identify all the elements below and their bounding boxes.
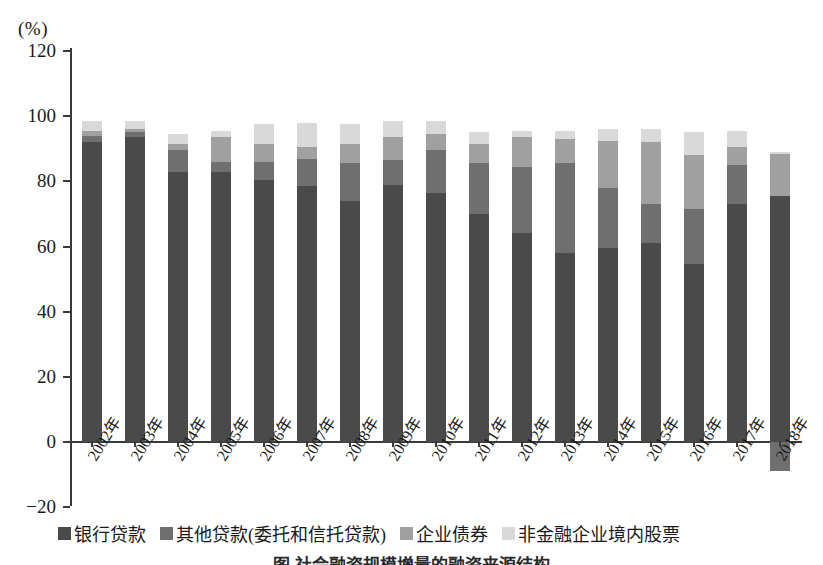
- legend-label: 银行贷款: [74, 520, 146, 546]
- y-tick-mark: [63, 180, 70, 182]
- bar-segment: [254, 162, 274, 180]
- bar-segment: [426, 150, 446, 192]
- bar-segment: [641, 142, 661, 204]
- bar-segment: [770, 196, 790, 442]
- bar-segment: [82, 136, 102, 143]
- bar-segment: [469, 214, 489, 442]
- bar-segment: [297, 159, 317, 187]
- y-tick-mark: [63, 441, 70, 443]
- bar-segment: [512, 167, 532, 234]
- bar-segment: [168, 144, 188, 151]
- bar-segment: [340, 163, 360, 200]
- bar-segment: [727, 131, 747, 147]
- bar-segment: [125, 132, 145, 137]
- bar-segment: [469, 144, 489, 164]
- y-tick-mark: [63, 246, 70, 248]
- bar-segment: [383, 160, 403, 184]
- legend-swatch-icon: [502, 527, 515, 540]
- legend-label: 企业债券: [416, 520, 488, 546]
- bar-segment: [340, 201, 360, 442]
- y-tick-label: 100: [8, 105, 56, 127]
- bar-segment: [727, 147, 747, 165]
- bar-segment: [211, 162, 231, 172]
- figure-caption: 图 社会融资规模增量的融资来源结构: [0, 551, 823, 565]
- bar-segment: [125, 137, 145, 442]
- bar-segment: [254, 180, 274, 442]
- legend-label: 其他贷款(委托和信托贷款): [176, 520, 386, 546]
- bar-segment: [340, 144, 360, 164]
- y-tick-mark: [63, 311, 70, 313]
- bar-segment: [641, 243, 661, 442]
- y-tick-label: 60: [8, 236, 56, 258]
- y-axis-unit-label: (%): [18, 18, 48, 40]
- bar-segment: [297, 147, 317, 158]
- legend-item[interactable]: 其他贷款(委托和信托贷款): [160, 520, 386, 546]
- bar-segment: [82, 131, 102, 136]
- legend-item[interactable]: 非金融企业境内股票: [502, 520, 680, 546]
- bar-segment: [383, 137, 403, 160]
- y-tick-label: 80: [8, 170, 56, 192]
- chart-legend: 银行贷款其他贷款(委托和信托贷款)企业债券非金融企业境内股票: [58, 520, 694, 546]
- bar-segment: [211, 131, 231, 138]
- bar-segment: [426, 134, 446, 150]
- bar-segment: [426, 121, 446, 134]
- bar-segment: [426, 193, 446, 442]
- bar-segment: [469, 132, 489, 143]
- bar-segment: [727, 204, 747, 442]
- bar-segment: [598, 188, 618, 248]
- bar-segment: [641, 129, 661, 142]
- bar-segment: [555, 253, 575, 442]
- bar-segment: [727, 165, 747, 204]
- bar-segment: [555, 131, 575, 139]
- y-tick-label: 40: [8, 301, 56, 323]
- bar-segment: [684, 132, 704, 155]
- bar-segment: [125, 129, 145, 132]
- bar-segment: [82, 121, 102, 131]
- y-tick-label: 0: [8, 431, 56, 453]
- bar-segment: [82, 142, 102, 442]
- bar-segment: [555, 139, 575, 163]
- bar-segment: [383, 121, 403, 137]
- y-tick-mark: [63, 50, 70, 52]
- bar-segment: [340, 124, 360, 144]
- bar-segment: [512, 137, 532, 166]
- y-tick-mark: [63, 376, 70, 378]
- bar-segment: [770, 154, 790, 196]
- y-tick-label: 20: [8, 366, 56, 388]
- legend-item[interactable]: 企业债券: [400, 520, 488, 546]
- bar-segment: [383, 185, 403, 442]
- bar-segment: [125, 121, 145, 129]
- bar-segment: [598, 248, 618, 442]
- bar-segment: [168, 150, 188, 171]
- legend-label: 非金融企业境内股票: [518, 520, 680, 546]
- bar-segment: [254, 124, 274, 144]
- chart-container: (%) 120100806040200−20 2002年2003年2004年20…: [0, 0, 823, 565]
- bar-segment: [555, 163, 575, 253]
- bar-segment: [598, 129, 618, 140]
- bar-segment: [168, 134, 188, 144]
- bar-segment: [297, 123, 317, 147]
- bar-segment: [512, 233, 532, 442]
- y-tick-label: −20: [8, 496, 56, 518]
- bar-segment: [469, 163, 489, 214]
- y-tick-mark: [63, 115, 70, 117]
- legend-swatch-icon: [58, 527, 71, 540]
- bar-segment: [641, 204, 661, 243]
- bar-segment: [211, 172, 231, 442]
- legend-item[interactable]: 银行贷款: [58, 520, 146, 546]
- bar-segment: [211, 137, 231, 161]
- bar-segment: [684, 155, 704, 209]
- bar-segment: [598, 141, 618, 188]
- bar-segment: [254, 144, 274, 162]
- y-tick-mark: [63, 506, 70, 508]
- bar-segment: [297, 186, 317, 442]
- bar-segment: [512, 131, 532, 138]
- bar-segment: [684, 264, 704, 442]
- bar-segment: [168, 172, 188, 442]
- y-tick-label: 120: [8, 40, 56, 62]
- bar-segment: [770, 152, 790, 154]
- bar-segment: [684, 209, 704, 264]
- legend-swatch-icon: [160, 527, 173, 540]
- legend-swatch-icon: [400, 527, 413, 540]
